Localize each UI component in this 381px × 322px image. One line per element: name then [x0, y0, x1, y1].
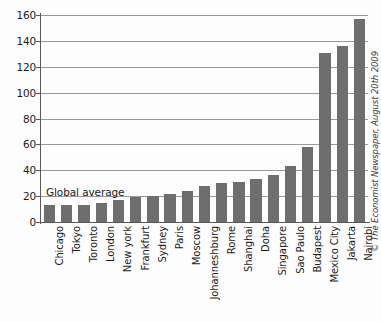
y-tick-label-0: 0: [2, 217, 36, 227]
y-tick-label-60: 60: [2, 139, 36, 149]
y-tick-label-140: 140: [2, 36, 36, 46]
x-tick-label: Toronto: [88, 226, 99, 262]
x-tick-label: Paris: [174, 226, 185, 249]
bar: [250, 179, 261, 222]
y-tick-mark-60: [36, 144, 41, 145]
bar: [285, 166, 296, 222]
bar: [113, 200, 124, 222]
bar-slot: [282, 15, 299, 222]
bar: [199, 186, 210, 222]
x-tick-label: New york: [122, 226, 133, 272]
x-tick-label: Moscow: [191, 226, 202, 265]
bar: [216, 183, 227, 222]
bar-slot: [316, 15, 333, 222]
x-tick-label: Jakarta: [346, 226, 357, 260]
bar: [96, 203, 107, 222]
bar-slot: [299, 15, 316, 222]
y-tick-mark-0: [36, 222, 41, 223]
y-axis-labels: 020406080100120140160: [0, 0, 36, 322]
x-tick-label: Johanneshburg: [209, 226, 220, 300]
bar-slot: [248, 15, 265, 222]
bar-slot: [161, 15, 178, 222]
y-tick-mark-40: [36, 170, 41, 171]
bar: [130, 197, 141, 222]
x-tick-label: Tokyo: [71, 226, 82, 254]
x-axis-labels: ChicagoTokyoTorontoLondonNew yorkFrankfu…: [41, 226, 368, 322]
x-tick-label: Sao Paulo: [295, 226, 306, 274]
global-average-label: Global average: [46, 186, 124, 198]
bar-slot: [334, 15, 351, 222]
x-tick-label: Mexico City: [329, 226, 340, 283]
y-tick-mark-100: [36, 93, 41, 94]
x-tick-label: Budapest: [312, 226, 323, 273]
y-tick-label-40: 40: [2, 165, 36, 175]
bar: [268, 175, 279, 222]
x-tick-label: Frankfurt: [140, 226, 151, 270]
bar: [182, 191, 193, 222]
y-tick-mark-140: [36, 41, 41, 42]
x-tick-label: Singapore: [277, 226, 288, 276]
bar: [337, 46, 348, 222]
bar: [164, 194, 175, 222]
bar-slot: [127, 15, 144, 222]
y-tick-mark-80: [36, 119, 41, 120]
y-tick-mark-20: [36, 196, 41, 197]
bar: [78, 205, 89, 222]
bar: [233, 182, 244, 222]
y-tick-label-120: 120: [2, 62, 36, 72]
x-tick-label: Sydney: [157, 226, 168, 262]
bar: [61, 205, 72, 222]
bar: [354, 19, 365, 222]
credit-text: © The Economist Newspaper, August 20th 2…: [370, 51, 380, 252]
bar-slot: [196, 15, 213, 222]
bar-slot: [213, 15, 230, 222]
y-tick-label-20: 20: [2, 191, 36, 201]
y-tick-label-100: 100: [2, 88, 36, 98]
y-tick-label-160: 160: [2, 10, 36, 20]
bar: [147, 196, 158, 222]
x-tick-label: Rome: [226, 226, 237, 254]
bar-slot: [351, 15, 368, 222]
x-tick-label: Shanghai: [243, 226, 254, 272]
x-tick-label: Doha: [260, 226, 271, 252]
bar-chart: 020406080100120140160 Global average Chi…: [0, 0, 381, 322]
bar-slot: [179, 15, 196, 222]
bar: [44, 205, 55, 222]
bar-slot: [144, 15, 161, 222]
x-tick-label: London: [105, 226, 116, 262]
bar: [302, 147, 313, 222]
x-tick-label: Chicago: [54, 226, 65, 266]
y-tick-mark-160: [36, 15, 41, 16]
bar: [319, 53, 330, 222]
bar-slot: [265, 15, 282, 222]
y-tick-label-80: 80: [2, 114, 36, 124]
bar-slot: [230, 15, 247, 222]
x-axis-line: [40, 222, 370, 223]
y-tick-mark-120: [36, 67, 41, 68]
